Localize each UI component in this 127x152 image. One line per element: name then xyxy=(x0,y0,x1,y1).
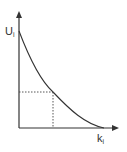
y-axis-label: Ui xyxy=(5,26,15,40)
y-axis xyxy=(16,11,22,128)
utility-curve-diagram xyxy=(0,0,127,152)
x-axis-arrow-icon xyxy=(112,125,119,131)
dotted-projection xyxy=(19,92,53,128)
x-axis-label: ki xyxy=(97,133,104,147)
y-axis-arrow-icon xyxy=(16,11,22,18)
decreasing-curve xyxy=(19,31,104,128)
